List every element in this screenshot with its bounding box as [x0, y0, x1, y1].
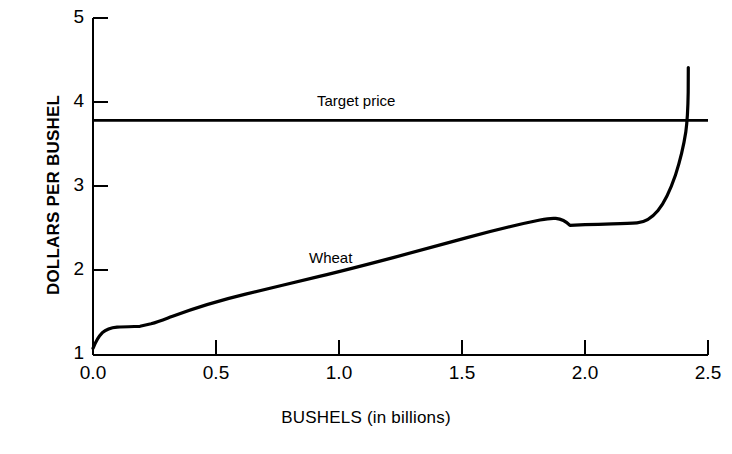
- annotation-wheat: Wheat: [309, 249, 352, 266]
- series-wheat: [93, 68, 688, 349]
- chart-canvas: DOLLARS PER BUSHEL 5 4 3 2 1 0.0 0.5 1.0…: [0, 0, 732, 454]
- x-tick-label-4: 2.0: [550, 362, 620, 384]
- x-axis-title: BUSHELS (in billions): [0, 408, 732, 428]
- y-axis-ticks: [93, 18, 108, 270]
- x-tick-label-2: 1.0: [304, 362, 374, 384]
- x-tick-label-0: 0.0: [58, 362, 128, 384]
- y-tick-label-5: 5: [44, 6, 84, 28]
- chart-plot-area: [0, 0, 732, 454]
- y-tick-label-1: 1: [44, 342, 84, 364]
- annotation-target-price: Target price: [317, 92, 395, 109]
- x-tick-label-1: 0.5: [181, 362, 251, 384]
- x-tick-label-5: 2.5: [673, 362, 732, 384]
- y-tick-label-3: 3: [44, 174, 84, 196]
- x-tick-label-3: 1.5: [427, 362, 497, 384]
- y-tick-label-4: 4: [44, 90, 84, 112]
- y-tick-label-2: 2: [44, 258, 84, 280]
- x-axis-ticks: [216, 340, 708, 355]
